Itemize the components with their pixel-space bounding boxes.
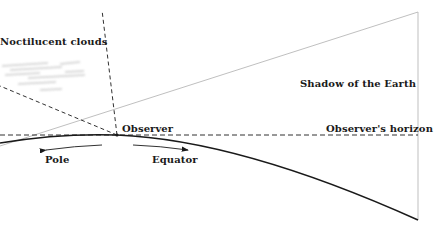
pole-arrow (46, 145, 102, 150)
label-observers-horizon: Observer's horizon (326, 123, 433, 134)
label-noctilucent-clouds: Noctilucent clouds (0, 36, 107, 47)
noctilucent-clouds-diagram: Noctilucent clouds Shadow of the Earth O… (0, 0, 442, 225)
cloud-wisps (2, 62, 85, 90)
label-pole: Pole (45, 154, 69, 165)
label-equator: Equator (152, 154, 198, 165)
label-observer: Observer (122, 123, 173, 134)
label-shadow-of-earth: Shadow of the Earth (300, 78, 416, 89)
equator-arrow (133, 145, 188, 150)
diagram-graphics (0, 0, 442, 225)
earth-surface (0, 135, 418, 220)
observer-point (115, 133, 118, 136)
zenith-line (102, 10, 117, 135)
